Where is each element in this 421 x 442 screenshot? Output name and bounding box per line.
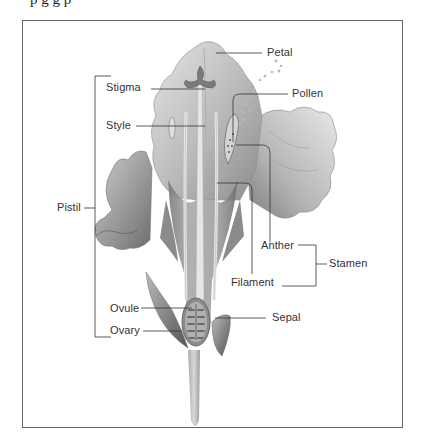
- label-style: Style: [106, 119, 131, 131]
- label-stamen: Stamen: [329, 257, 368, 269]
- label-ovary: Ovary: [110, 324, 140, 336]
- label-pollen: Pollen: [292, 87, 323, 99]
- label-anther: Anther: [261, 239, 294, 251]
- upper-petal: [151, 42, 262, 200]
- label-ovule: Ovule: [110, 302, 139, 314]
- left-petal: [95, 151, 152, 250]
- left-anther: [169, 117, 175, 139]
- label-petal: Petal: [267, 46, 293, 58]
- label-pistil: Pistil: [57, 201, 81, 213]
- label-stigma: Stigma: [106, 81, 141, 93]
- flower-illustration: [0, 0, 421, 442]
- label-sepal: Sepal: [272, 311, 301, 323]
- ovary-structure: [182, 298, 210, 346]
- label-filament: Filament: [231, 276, 274, 288]
- stem: [188, 350, 200, 426]
